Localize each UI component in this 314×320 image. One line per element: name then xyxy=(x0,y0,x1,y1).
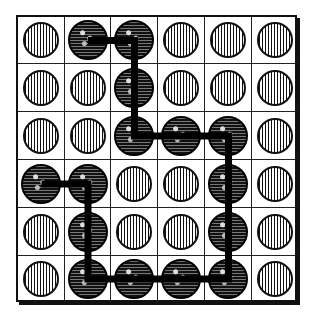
filled-disc-icon xyxy=(208,259,248,299)
filled-disc-icon xyxy=(208,116,248,156)
board-cell[interactable] xyxy=(65,208,111,256)
empty-disc-icon xyxy=(23,70,59,106)
empty-disc-icon xyxy=(23,214,59,250)
empty-disc-icon xyxy=(163,70,199,106)
filled-disc-icon xyxy=(114,20,154,60)
empty-disc-icon xyxy=(163,166,199,202)
empty-disc-icon xyxy=(210,70,246,106)
board-cell[interactable] xyxy=(18,160,65,208)
empty-disc-icon xyxy=(257,118,293,154)
filled-disc-icon xyxy=(21,164,61,204)
empty-disc-icon xyxy=(257,22,293,58)
filled-disc-icon xyxy=(161,116,201,156)
empty-disc-icon xyxy=(257,70,293,106)
board-cell[interactable] xyxy=(252,160,297,208)
empty-disc-icon xyxy=(23,261,59,297)
board-cell[interactable] xyxy=(158,256,205,302)
board-cell[interactable] xyxy=(205,64,252,112)
empty-disc-icon xyxy=(257,261,293,297)
empty-disc-icon xyxy=(163,22,199,58)
filled-disc-icon xyxy=(68,20,108,60)
board-cell[interactable] xyxy=(18,64,65,112)
board-cell[interactable] xyxy=(111,64,158,112)
empty-disc-icon xyxy=(210,22,246,58)
board-cell[interactable] xyxy=(158,208,205,256)
filled-disc-icon xyxy=(208,164,248,204)
empty-disc-icon xyxy=(163,214,199,250)
board-cell[interactable] xyxy=(18,112,65,160)
empty-disc-icon xyxy=(116,166,152,202)
board-cell[interactable] xyxy=(111,208,158,256)
board-cell[interactable] xyxy=(158,64,205,112)
board-cell[interactable] xyxy=(65,17,111,64)
board-cell[interactable] xyxy=(205,208,252,256)
board-cell[interactable] xyxy=(111,17,158,64)
board-cell[interactable] xyxy=(18,256,65,302)
board-cell[interactable] xyxy=(205,160,252,208)
board-cell[interactable] xyxy=(111,160,158,208)
filled-disc-icon xyxy=(114,259,154,299)
empty-disc-icon xyxy=(23,22,59,58)
filled-disc-icon xyxy=(68,164,108,204)
filled-disc-icon xyxy=(208,212,248,252)
board-cell[interactable] xyxy=(158,112,205,160)
board-cell[interactable] xyxy=(252,17,297,64)
board-cell[interactable] xyxy=(158,160,205,208)
board-cell[interactable] xyxy=(158,17,205,64)
board-cell[interactable] xyxy=(205,112,252,160)
board-cell[interactable] xyxy=(252,112,297,160)
board-cell[interactable] xyxy=(65,64,111,112)
empty-disc-icon xyxy=(23,118,59,154)
board-cell[interactable] xyxy=(252,208,297,256)
filled-disc-icon xyxy=(114,68,154,108)
empty-disc-icon xyxy=(116,214,152,250)
board-cell[interactable] xyxy=(205,256,252,302)
board-cell[interactable] xyxy=(65,256,111,302)
filled-disc-icon xyxy=(161,259,201,299)
board-cell[interactable] xyxy=(65,160,111,208)
board-cell[interactable] xyxy=(252,64,297,112)
filled-disc-icon xyxy=(114,116,154,156)
board-cell[interactable] xyxy=(252,256,297,302)
empty-disc-icon xyxy=(257,166,293,202)
board-cell[interactable] xyxy=(111,256,158,302)
empty-disc-icon xyxy=(70,118,106,154)
empty-disc-icon xyxy=(70,70,106,106)
board-cell[interactable] xyxy=(18,17,65,64)
board-cell[interactable] xyxy=(18,208,65,256)
game-board xyxy=(16,15,297,302)
filled-disc-icon xyxy=(68,212,108,252)
board-cell[interactable] xyxy=(111,112,158,160)
board-cell[interactable] xyxy=(65,112,111,160)
filled-disc-icon xyxy=(68,259,108,299)
empty-disc-icon xyxy=(257,214,293,250)
board-cell[interactable] xyxy=(205,17,252,64)
